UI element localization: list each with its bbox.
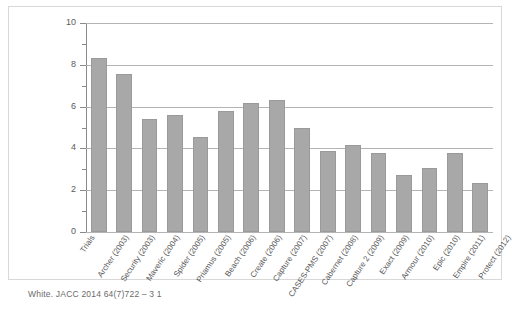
bar (320, 151, 336, 233)
x-axis-line (86, 232, 493, 233)
bar (294, 128, 310, 233)
bar (167, 115, 183, 232)
bar (371, 153, 387, 232)
x-axis-labels: TrialsArcher (2003)Security (2003)Maveri… (86, 234, 493, 318)
bar (91, 58, 107, 233)
y-tick-label-8: 8 (48, 60, 76, 69)
bar (243, 103, 259, 232)
bar (193, 137, 209, 232)
y-tick-label-2: 2 (48, 185, 76, 194)
bar (345, 145, 361, 232)
plot-area (86, 23, 493, 232)
bar (269, 100, 285, 232)
bar (422, 168, 438, 232)
bar (472, 183, 488, 232)
bar (116, 74, 132, 232)
y-tick-label-6: 6 (48, 102, 76, 111)
bar (218, 111, 234, 232)
bar (447, 153, 463, 232)
bar (142, 119, 158, 232)
citation-text: White. JACC 2014 64(7)722 – 3 1 (28, 289, 162, 299)
y-tick-label-4: 4 (48, 143, 76, 152)
y-axis-labels: 0246810 (44, 0, 76, 280)
y-tick-label-10: 10 (48, 18, 76, 27)
y-tick-label-0: 0 (48, 227, 76, 236)
bar (396, 175, 412, 232)
